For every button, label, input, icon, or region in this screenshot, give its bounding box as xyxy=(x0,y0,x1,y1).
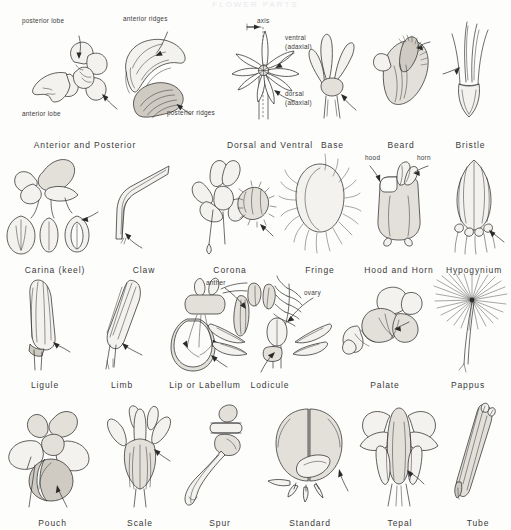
figure-spur: Spur xyxy=(175,400,265,528)
figure-image-tube xyxy=(445,400,511,510)
figure-row-2: Carina (keel) Claw xyxy=(0,150,511,275)
caption-lodicule: Lodicule xyxy=(200,380,340,390)
caption-palate: Palate xyxy=(335,380,435,390)
annotation-anterior-lobe: anterior lobe xyxy=(22,110,61,117)
figure-image-fringe xyxy=(275,150,365,257)
caption-spur: Spur xyxy=(175,518,265,528)
annotation-axis: axis xyxy=(257,17,269,24)
figure-image-carina-keel xyxy=(0,150,110,257)
figure-anterior-posterior-ridges: anterior ridges posterior ridges xyxy=(105,12,220,150)
figure-image-spur xyxy=(175,400,265,510)
annotation-anther: anther xyxy=(206,279,226,286)
figure-image-palate xyxy=(335,275,435,372)
figure-carina-keel: Carina (keel) xyxy=(0,150,110,275)
figure-image-ligule xyxy=(0,275,90,372)
caption-tepal: Tepal xyxy=(345,518,455,528)
figure-tube: Tube xyxy=(445,400,511,528)
caption-carina-keel: Carina (keel) xyxy=(0,265,110,275)
botanical-glossary-plate: FLOWER PARTS xyxy=(0,0,511,530)
caption-bristle: Bristle xyxy=(430,140,511,150)
figure-hypogynium: Hypogynium xyxy=(437,150,511,275)
figure-ligule: Ligule xyxy=(0,275,90,390)
figure-row-1: posterior lobe anterior lobe Anterior an… xyxy=(0,12,511,150)
caption-corona: Corona xyxy=(180,265,280,275)
figure-lodicule: anther ovary Lodicule xyxy=(200,275,340,390)
caption-fringe: Fringe xyxy=(275,265,365,275)
figure-fringe: Fringe xyxy=(275,150,365,275)
figure-row-3: Ligule Limb xyxy=(0,275,511,390)
figure-bristle: Bristle xyxy=(430,12,511,150)
figure-image-bristle xyxy=(430,12,511,132)
figure-image-hood-and-horn xyxy=(355,150,443,257)
figure-pouch: Pouch xyxy=(0,400,105,528)
annotation-posterior-lobe: posterior lobe xyxy=(22,17,64,24)
figure-image-claw xyxy=(100,150,188,257)
annotation-hood: hood xyxy=(365,154,380,161)
caption-tube: Tube xyxy=(445,518,511,528)
figure-corona: Corona xyxy=(180,150,280,275)
caption-scale: Scale xyxy=(95,518,185,528)
figure-pappus: Pappus xyxy=(425,275,511,390)
figure-image-pappus xyxy=(425,275,511,372)
figure-claw: Claw xyxy=(100,150,188,275)
figure-palate: Palate xyxy=(335,275,435,390)
caption-ligule: Ligule xyxy=(0,380,90,390)
figure-image-hypogynium xyxy=(437,150,511,257)
annotation-ovary: ovary xyxy=(304,289,321,296)
figure-scale: Scale xyxy=(95,400,185,528)
caption-claw: Claw xyxy=(100,265,188,275)
plate-title: FLOWER PARTS xyxy=(0,0,511,10)
figure-image-corona xyxy=(180,150,280,257)
figure-row-4: Pouch Scale xyxy=(0,400,511,528)
caption-pappus: Pappus xyxy=(425,380,511,390)
figure-image-tepal xyxy=(345,400,455,510)
figure-tepal: Tepal xyxy=(345,400,455,528)
annotation-horn: horn xyxy=(417,154,431,161)
figure-image-scale xyxy=(95,400,185,510)
annotation-anterior-ridges: anterior ridges xyxy=(123,15,168,22)
figure-hood-and-horn: hood horn Hood and Horn xyxy=(355,150,443,275)
figure-image-pouch xyxy=(0,400,105,510)
caption-pouch: Pouch xyxy=(0,518,105,528)
